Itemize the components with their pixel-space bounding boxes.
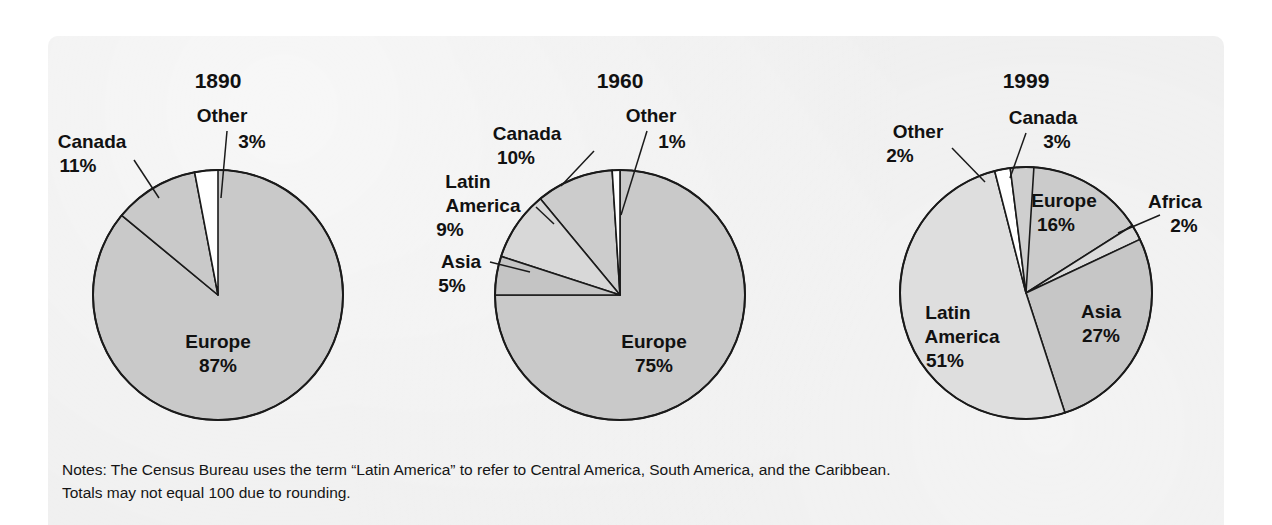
- label-other-pct-1960: 1%: [658, 131, 686, 152]
- pie-charts-figure: 1890 Other 3% Canada 11% Europe 87% 1960: [0, 0, 1272, 525]
- label-america-1960: America: [446, 195, 521, 216]
- label-europe-pct-1999: 16%: [1037, 214, 1075, 235]
- label-other-1890: Other: [197, 105, 248, 126]
- notes-block: Notes: The Census Bureau uses the term “…: [62, 458, 1192, 504]
- pie-1890-slices: [93, 170, 343, 420]
- notes-line-1: Notes: The Census Bureau uses the term “…: [62, 458, 1192, 481]
- label-africa-1999: Africa: [1148, 191, 1202, 212]
- label-asia-1999: Asia: [1081, 301, 1122, 322]
- label-africa-pct-1999: 2%: [1170, 215, 1198, 236]
- label-latin-1999: Latin: [925, 302, 970, 323]
- label-latin-1960: Latin: [445, 171, 490, 192]
- figure-page: 1890 Other 3% Canada 11% Europe 87% 1960: [0, 0, 1272, 525]
- chart-1960: 1960 Other 1% Canada 10% Latin America 9…: [436, 69, 745, 420]
- label-canada-1999: Canada: [1009, 107, 1078, 128]
- chart-title-1960: 1960: [597, 69, 644, 92]
- label-europe-1960: Europe: [621, 331, 686, 352]
- chart-1890: 1890 Other 3% Canada 11% Europe 87%: [58, 69, 343, 420]
- label-other-pct-1890: 3%: [238, 131, 266, 152]
- leader-other-1999: [952, 148, 985, 182]
- label-other-1999: Other: [893, 121, 944, 142]
- label-latin-pct-1960: 9%: [436, 219, 464, 240]
- notes-line-2: Totals may not equal 100 due to rounding…: [62, 481, 1192, 504]
- label-canada-1960: Canada: [493, 123, 562, 144]
- label-europe-1999: Europe: [1031, 190, 1096, 211]
- label-asia-pct-1960: 5%: [438, 275, 466, 296]
- pie-1960-slices: [495, 170, 745, 420]
- chart-title-1890: 1890: [195, 69, 242, 92]
- label-europe-1890: Europe: [185, 331, 250, 352]
- chart-1999: 1999 Canada 3% Other 2% Europe 16% A: [886, 69, 1202, 419]
- label-other-1960: Other: [626, 105, 677, 126]
- label-canada-pct-1890: 11%: [60, 155, 97, 176]
- chart-title-1999: 1999: [1003, 69, 1050, 92]
- label-europe-pct-1890: 87%: [199, 355, 237, 376]
- label-america-1999: America: [925, 326, 1000, 347]
- label-canada-1890: Canada: [58, 131, 127, 152]
- pie-1999-slices: [900, 167, 1152, 419]
- label-canada-pct-1960: 10%: [497, 147, 535, 168]
- label-europe-pct-1960: 75%: [635, 355, 673, 376]
- label-asia-pct-1999: 27%: [1082, 325, 1120, 346]
- label-asia-1960: Asia: [441, 251, 482, 272]
- label-latin-pct-1999: 51%: [926, 350, 964, 371]
- label-other-pct-1999: 2%: [886, 145, 914, 166]
- label-canada-pct-1999: 3%: [1043, 131, 1071, 152]
